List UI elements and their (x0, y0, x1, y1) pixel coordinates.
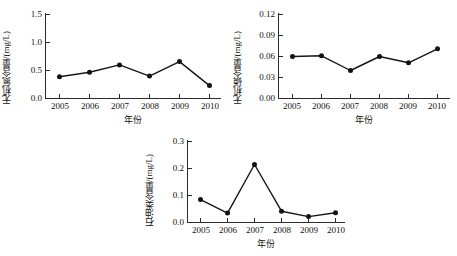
x-tick-label: 2007 (341, 101, 359, 111)
data-point (177, 59, 182, 64)
x-tick-label: 2006 (219, 225, 237, 235)
y-axis-label: 无机磷含量/(mg/L) (233, 12, 242, 104)
y-tick-label: 0.00 (243, 93, 275, 103)
chart-inorganic-nitrogen: 无机氮含量/(mg/L) 1.5 1.0 0.5 0.0 (0, 0, 231, 131)
y-tick-label: 0.3 (158, 136, 184, 146)
data-point (290, 54, 295, 59)
data-point (377, 54, 382, 59)
x-tick-label: 2008 (370, 101, 388, 111)
plot-area (45, 13, 221, 103)
x-tick-label: 2007 (111, 101, 129, 111)
x-tick-label: 2005 (51, 101, 69, 111)
x-tick-label: 2006 (81, 101, 99, 111)
data-point (252, 162, 257, 167)
x-tick-label: 2005 (283, 101, 301, 111)
data-point (57, 74, 62, 79)
data-series-line (293, 49, 438, 71)
x-tick-label: 2008 (273, 225, 291, 235)
plot-area (278, 13, 450, 103)
data-point (319, 53, 324, 58)
x-axis-label: 年份 (187, 237, 345, 250)
x-tick-label: 2009 (399, 101, 417, 111)
x-tick-label: 2010 (201, 101, 219, 111)
x-axis-label: 年份 (278, 113, 450, 126)
data-series-line (60, 62, 210, 86)
x-tick-label: 2009 (300, 225, 318, 235)
y-tick-label: 0.0 (158, 217, 184, 227)
x-tick-label: 2007 (246, 225, 264, 235)
data-point (435, 46, 440, 51)
x-tick-label: 2008 (141, 101, 159, 111)
data-point (306, 214, 311, 219)
x-tick-label: 2009 (171, 101, 189, 111)
y-tick-label: 0.2 (158, 163, 184, 173)
y-tick-label: 0.12 (243, 9, 275, 19)
y-axis-label: 石油类含量/(mg/L) (145, 139, 154, 227)
data-point (87, 70, 92, 75)
x-tick-label: 2010 (428, 101, 446, 111)
y-tick-label: 1.5 (16, 9, 42, 19)
y-tick-label: 0.09 (243, 30, 275, 40)
data-point (279, 209, 284, 214)
data-point (348, 68, 353, 73)
y-tick-label: 0.0 (16, 93, 42, 103)
data-point (225, 211, 230, 216)
x-tick-label: 2005 (192, 225, 210, 235)
data-point (406, 60, 411, 65)
y-tick-label: 0.03 (243, 72, 275, 82)
data-point (207, 83, 212, 88)
data-point (117, 62, 122, 67)
y-tick-label: 0.06 (243, 51, 275, 61)
y-tick-label: 0.5 (16, 65, 42, 75)
chart-inorganic-phosphorus: 无机磷含量/(mg/L) 0.12 0.09 0.06 0.03 0.00 (231, 0, 457, 131)
y-tick-label: 1.0 (16, 37, 42, 47)
data-point (198, 197, 203, 202)
data-point (147, 74, 152, 79)
y-tick-label: 0.1 (158, 190, 184, 200)
y-axis-label: 无机氮含量/(mg/L) (2, 12, 11, 104)
chart-petroleum-hydrocarbons: 石油类含量/(mg/L) 0.3 0.2 0.1 0.0 2005 (115, 130, 346, 256)
data-point (333, 210, 338, 215)
plot-area (187, 140, 345, 226)
x-tick-label: 2010 (327, 225, 345, 235)
data-series-line (201, 165, 336, 217)
x-tick-label: 2006 (312, 101, 330, 111)
x-axis-label: 年份 (45, 113, 221, 126)
